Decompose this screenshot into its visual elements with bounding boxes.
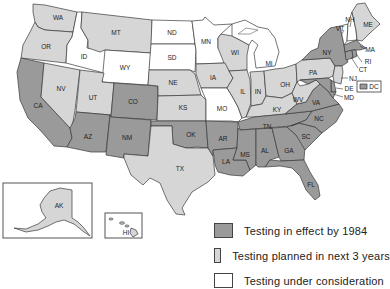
state-DC[interactable] (360, 84, 367, 89)
svg-text:NV: NV (56, 85, 66, 92)
svg-text:WI: WI (231, 49, 239, 56)
svg-text:AZ: AZ (84, 133, 92, 140)
legend: Testing in effect by 1984 Testing planne… (210, 218, 390, 289)
svg-text:DC: DC (369, 83, 379, 90)
svg-text:CO: CO (128, 98, 138, 105)
svg-text:PA: PA (309, 69, 318, 76)
legend-item-consideration: Testing under consideration (210, 268, 390, 289)
svg-text:MD: MD (344, 94, 354, 101)
svg-text:HI: HI (123, 229, 130, 236)
svg-text:OK: OK (186, 131, 196, 138)
svg-text:NC: NC (314, 115, 324, 122)
swatch-in-effect-icon (214, 223, 233, 238)
svg-text:AR: AR (218, 135, 227, 142)
svg-text:OH: OH (280, 81, 290, 88)
svg-text:AL: AL (261, 147, 269, 154)
svg-text:NH: NH (345, 16, 355, 23)
svg-text:NM: NM (122, 134, 132, 141)
svg-text:MA: MA (365, 46, 375, 53)
svg-text:WY: WY (120, 64, 131, 71)
svg-text:ID: ID (81, 53, 88, 60)
svg-text:CA: CA (33, 102, 43, 109)
svg-text:ME: ME (363, 21, 373, 28)
svg-text:CT: CT (359, 66, 368, 73)
state-NJ[interactable] (333, 66, 343, 84)
svg-text:GA: GA (284, 147, 294, 154)
svg-text:UT: UT (89, 94, 98, 101)
svg-text:FL: FL (307, 181, 315, 188)
svg-text:IL: IL (240, 88, 246, 95)
svg-text:TX: TX (176, 165, 185, 172)
svg-text:TN: TN (263, 123, 272, 130)
svg-text:AK: AK (55, 202, 64, 209)
svg-text:SD: SD (167, 54, 176, 61)
swatch-consideration-icon (214, 273, 233, 288)
svg-text:RI: RI (365, 58, 372, 65)
svg-text:IA: IA (210, 74, 217, 81)
svg-text:MN: MN (201, 38, 211, 45)
svg-text:MS: MS (240, 151, 250, 158)
svg-text:WV: WV (293, 96, 304, 103)
svg-text:IN: IN (255, 88, 262, 95)
svg-text:ND: ND (167, 29, 177, 36)
svg-text:MO: MO (217, 105, 227, 112)
legend-label: Testing planned in next 3 years (232, 250, 390, 262)
svg-text:NJ: NJ (349, 75, 357, 82)
svg-text:DE: DE (344, 85, 354, 92)
legend-label: Testing under consideration (244, 275, 384, 287)
svg-text:OR: OR (41, 43, 51, 50)
legend-item-planned: Testing planned in next 3 years (210, 243, 390, 268)
svg-text:KS: KS (179, 104, 188, 111)
legend-label: Testing in effect by 1984 (244, 225, 367, 237)
svg-text:VA: VA (312, 99, 321, 106)
svg-text:NY: NY (322, 49, 332, 56)
svg-text:LA: LA (222, 158, 231, 165)
svg-text:MT: MT (111, 29, 120, 36)
svg-text:VT: VT (336, 25, 344, 32)
svg-text:NE: NE (168, 79, 178, 86)
legend-item-in-effect: Testing in effect by 1984 (210, 218, 390, 243)
swatch-planned-icon (214, 248, 221, 263)
svg-text:WA: WA (53, 14, 64, 21)
svg-text:MI: MI (265, 60, 272, 67)
svg-text:SC: SC (301, 133, 310, 140)
svg-text:KY: KY (273, 106, 282, 113)
